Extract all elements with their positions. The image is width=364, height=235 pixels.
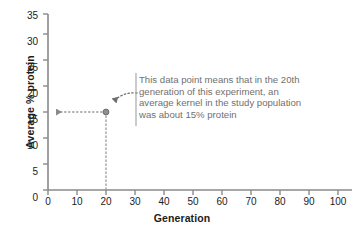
annotation-line: generation of this experiment, an xyxy=(139,86,354,98)
annotation-line: This data point means that in the 20th xyxy=(139,74,354,86)
chart-container: Average % protein Generation 0 5 10 15 2… xyxy=(0,0,364,235)
annotation-line: was about 15% protein xyxy=(139,109,354,121)
annotation-line: average kernel in the study population xyxy=(139,97,354,109)
data-point-marker[interactable] xyxy=(103,109,109,115)
annotation-connector-arrow xyxy=(114,93,137,101)
data-point-annotation: This data point means that in the 20th g… xyxy=(139,74,354,120)
